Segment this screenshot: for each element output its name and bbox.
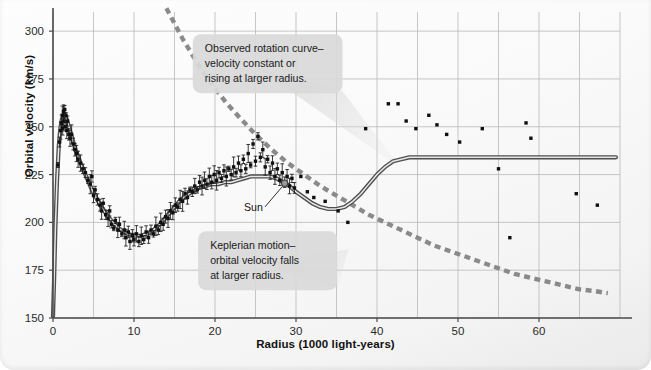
data-point <box>79 161 82 164</box>
data-point <box>254 159 257 162</box>
data-point <box>64 114 67 117</box>
data-point <box>63 125 66 128</box>
data-point <box>210 181 213 184</box>
y-tick-label: 175 <box>25 264 44 276</box>
sun-label: Sun <box>244 201 263 213</box>
data-point <box>183 192 186 195</box>
data-point <box>249 163 252 166</box>
data-point <box>154 225 157 228</box>
data-point <box>364 127 367 130</box>
data-point <box>247 152 250 155</box>
data-point <box>404 119 407 122</box>
data-point <box>205 182 208 185</box>
data-point <box>140 234 143 237</box>
data-point <box>72 142 75 145</box>
data-point <box>102 202 105 205</box>
data-point <box>186 196 189 199</box>
data-point <box>195 188 198 191</box>
data-point <box>75 152 78 155</box>
callout-line: Observed rotation curve– <box>205 42 324 54</box>
sun-marker <box>282 180 288 186</box>
data-point <box>306 190 309 193</box>
data-point <box>81 167 84 170</box>
data-point <box>114 219 117 222</box>
data-point <box>171 211 174 214</box>
data-point <box>596 203 599 206</box>
x-tick-label: 50 <box>452 325 465 337</box>
data-point <box>529 137 532 140</box>
data-point <box>58 140 61 143</box>
y-axis-title: Orbital velocity (km/s) <box>23 31 35 201</box>
data-point <box>508 236 511 239</box>
data-point <box>524 121 527 124</box>
data-point <box>131 234 134 237</box>
data-point <box>212 173 215 176</box>
data-point <box>256 135 259 138</box>
data-point <box>157 228 160 231</box>
data-point <box>208 175 211 178</box>
data-point <box>261 148 264 151</box>
data-point <box>222 169 225 172</box>
y-tick-label: 200 <box>25 216 44 228</box>
data-point <box>198 181 201 184</box>
data-point <box>132 238 135 241</box>
data-point <box>89 182 92 185</box>
data-point <box>61 114 64 117</box>
data-point <box>387 102 390 105</box>
data-point <box>285 175 288 178</box>
data-point <box>70 133 73 136</box>
data-point <box>147 236 150 239</box>
data-point <box>276 167 279 170</box>
data-point <box>56 163 59 166</box>
data-point <box>273 175 276 178</box>
data-point <box>445 133 448 136</box>
data-point <box>93 188 96 191</box>
data-point <box>166 217 169 220</box>
data-point <box>120 232 123 235</box>
x-tick-label: 10 <box>128 325 141 337</box>
data-point <box>225 175 228 178</box>
data-point <box>100 209 103 212</box>
callout-line: orbital velocity falls <box>210 254 299 266</box>
data-point <box>435 123 438 126</box>
data-point <box>63 108 66 111</box>
data-point <box>268 171 271 174</box>
data-point <box>149 228 152 231</box>
data-point <box>288 184 291 187</box>
data-point <box>220 177 223 180</box>
y-tick-label: 150 <box>25 312 44 324</box>
rotation-curve-figure: 0102030405060150175200225250275300 Sun O… <box>0 0 651 370</box>
data-point <box>110 223 113 226</box>
data-point <box>128 240 131 243</box>
data-point <box>98 203 101 206</box>
data-point <box>427 114 430 117</box>
chart-canvas: 0102030405060150175200225250275300 Sun O… <box>0 0 651 370</box>
x-tick-label: 20 <box>209 325 222 337</box>
data-point <box>293 186 296 189</box>
x-tick-label: 0 <box>50 325 56 337</box>
x-tick-label: 30 <box>290 325 303 337</box>
data-point <box>65 129 68 132</box>
data-point <box>152 232 155 235</box>
data-point <box>144 230 147 233</box>
data-point <box>68 137 71 140</box>
data-point <box>203 179 206 182</box>
data-point <box>312 196 315 199</box>
data-point <box>281 171 284 174</box>
data-point <box>575 192 578 195</box>
data-point <box>251 142 254 145</box>
data-point <box>217 171 220 174</box>
data-point <box>127 230 130 233</box>
data-point <box>176 205 179 208</box>
data-point <box>290 177 293 180</box>
callout-line: Keplerian motion– <box>210 239 295 251</box>
data-point <box>266 158 269 161</box>
callout-line: at larger radius. <box>210 269 284 281</box>
callout-line: velocity constant or <box>205 57 296 69</box>
data-point <box>123 228 126 231</box>
data-point <box>96 198 99 201</box>
data-point <box>200 184 203 187</box>
callout-line: rising at larger radius. <box>205 72 307 84</box>
data-point <box>86 179 89 182</box>
data-point <box>234 171 237 174</box>
